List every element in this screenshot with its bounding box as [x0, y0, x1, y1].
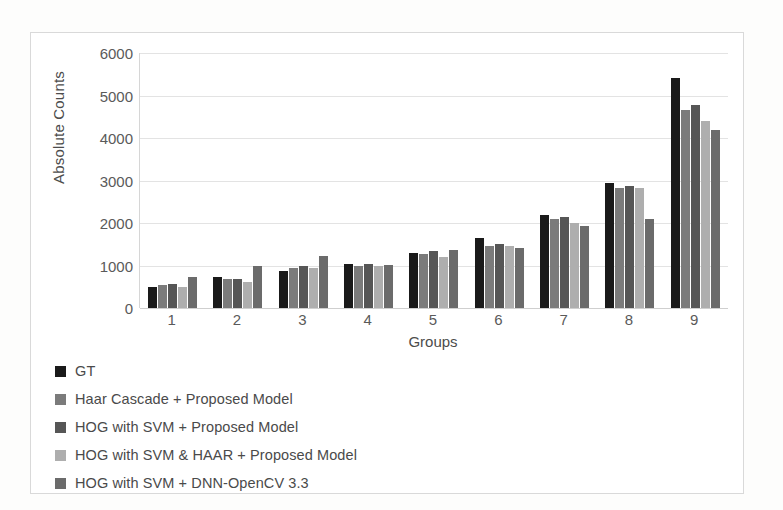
bar-g5-s5[interactable]: [449, 250, 458, 308]
bar-group-2: [205, 53, 270, 308]
bar-g7-s4[interactable]: [570, 223, 579, 308]
bar-g3-s3[interactable]: [299, 266, 308, 309]
y-axis-tick-5000: 5000: [77, 87, 133, 104]
bar-g2-s1[interactable]: [213, 277, 222, 308]
plot-area: [139, 53, 728, 308]
x-axis-tick-7: 7: [531, 311, 596, 335]
bar-g5-s1[interactable]: [409, 253, 418, 308]
bar-g1-s3[interactable]: [168, 284, 177, 308]
chart-legend: GTHaar Cascade + Proposed ModelHOG with …: [55, 357, 655, 497]
bar-g1-s5[interactable]: [188, 277, 197, 308]
bar-g7-s3[interactable]: [560, 217, 569, 308]
bar-g1-s2[interactable]: [158, 285, 167, 308]
y-axis-tick-6000: 6000: [77, 45, 133, 62]
legend-item-1[interactable]: GT: [55, 357, 655, 385]
legend-label-3: HOG with SVM + Proposed Model: [75, 419, 298, 435]
plot-area-wrapper: Absolute Counts 600050004000300020001000…: [31, 33, 745, 323]
bar-g4-s4[interactable]: [374, 266, 383, 309]
bar-g8-s3[interactable]: [625, 186, 634, 308]
bar-group-8: [597, 53, 662, 308]
x-axis-tick-1: 1: [139, 311, 204, 335]
bar-g7-s5[interactable]: [580, 226, 589, 308]
y-axis-tick-1000: 1000: [77, 257, 133, 274]
legend-item-3[interactable]: HOG with SVM + Proposed Model: [55, 413, 655, 441]
bar-g3-s5[interactable]: [319, 256, 328, 308]
bar-g2-s4[interactable]: [243, 282, 252, 308]
bar-g4-s3[interactable]: [364, 264, 373, 308]
bar-g5-s4[interactable]: [439, 257, 448, 308]
bar-group-5: [401, 53, 466, 308]
x-axis-tick-5: 5: [400, 311, 465, 335]
legend-swatch-icon-1: [55, 366, 66, 377]
bar-g9-s3[interactable]: [691, 105, 700, 308]
bar-group-3: [271, 53, 336, 308]
legend-swatch-icon-2: [55, 394, 66, 405]
x-axis-tick-4: 4: [335, 311, 400, 335]
bar-g8-s1[interactable]: [605, 183, 614, 308]
y-axis-tick-4000: 4000: [77, 130, 133, 147]
legend-swatch-icon-4: [55, 450, 66, 461]
bar-g9-s2[interactable]: [681, 110, 690, 308]
figure-canvas: Absolute Counts 600050004000300020001000…: [0, 0, 783, 510]
bar-g7-s2[interactable]: [550, 219, 559, 308]
bar-g2-s3[interactable]: [233, 279, 242, 308]
legend-item-5[interactable]: HOG with SVM + DNN-OpenCV 3.3: [55, 469, 655, 497]
y-axis-tick-3000: 3000: [77, 172, 133, 189]
bar-g6-s2[interactable]: [485, 246, 494, 308]
bar-g5-s3[interactable]: [429, 251, 438, 308]
bar-g8-s5[interactable]: [645, 219, 654, 308]
bar-g9-s4[interactable]: [701, 121, 710, 308]
bar-group-6: [467, 53, 532, 308]
bar-g6-s5[interactable]: [515, 248, 524, 308]
bar-g2-s2[interactable]: [223, 279, 232, 308]
bar-g8-s2[interactable]: [615, 188, 624, 308]
bar-g9-s1[interactable]: [671, 78, 680, 308]
x-axis-tick-9: 9: [662, 311, 727, 335]
bar-g4-s1[interactable]: [344, 264, 353, 308]
bar-group-1: [140, 53, 205, 308]
bar-g3-s2[interactable]: [289, 268, 298, 308]
bar-g1-s1[interactable]: [148, 287, 157, 308]
bar-g9-s5[interactable]: [711, 130, 720, 308]
legend-label-2: Haar Cascade + Proposed Model: [75, 391, 293, 407]
bar-group-7: [532, 53, 597, 308]
chart-frame: Absolute Counts 600050004000300020001000…: [30, 32, 744, 494]
x-axis-tick-8: 8: [596, 311, 661, 335]
bar-g6-s1[interactable]: [475, 238, 484, 308]
bar-g2-s5[interactable]: [253, 266, 262, 309]
y-axis-tick-0: 0: [77, 300, 133, 317]
legend-swatch-icon-5: [55, 478, 66, 489]
bar-g5-s2[interactable]: [419, 254, 428, 308]
bar-g3-s1[interactable]: [279, 271, 288, 308]
y-axis-title: Absolute Counts: [50, 43, 67, 213]
bar-group-4: [336, 53, 401, 308]
legend-label-4: HOG with SVM & HAAR + Proposed Model: [75, 447, 357, 463]
bar-series-container: [140, 53, 728, 308]
legend-swatch-icon-3: [55, 422, 66, 433]
bar-g8-s4[interactable]: [635, 188, 644, 308]
bar-g3-s4[interactable]: [309, 268, 318, 308]
bar-g4-s2[interactable]: [354, 266, 363, 309]
y-axis-tick-2000: 2000: [77, 215, 133, 232]
bar-g1-s4[interactable]: [178, 287, 187, 308]
legend-item-2[interactable]: Haar Cascade + Proposed Model: [55, 385, 655, 413]
bar-g7-s1[interactable]: [540, 215, 549, 309]
bar-g6-s4[interactable]: [505, 246, 514, 308]
y-axis-tick-labels: 6000500040003000200010000: [75, 53, 133, 308]
legend-label-5: HOG with SVM + DNN-OpenCV 3.3: [75, 475, 309, 491]
gridline-0: [140, 308, 728, 309]
x-axis-tick-6: 6: [466, 311, 531, 335]
x-axis-tick-labels: 123456789: [139, 311, 727, 335]
bar-g4-s5[interactable]: [384, 265, 393, 308]
x-axis-title: Groups: [139, 333, 727, 350]
bar-g6-s3[interactable]: [495, 244, 504, 308]
x-axis-tick-3: 3: [270, 311, 335, 335]
legend-label-1: GT: [75, 363, 95, 379]
legend-item-4[interactable]: HOG with SVM & HAAR + Proposed Model: [55, 441, 655, 469]
bar-group-9: [663, 53, 728, 308]
x-axis-tick-2: 2: [204, 311, 269, 335]
